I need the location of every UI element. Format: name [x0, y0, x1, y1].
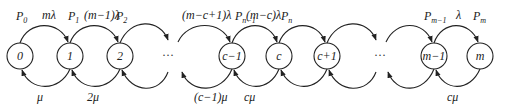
prob-p1: P1 [68, 10, 79, 25]
ellipsis-2: ··· [374, 48, 386, 63]
node-label-m-minus-1: m−1 [420, 50, 448, 62]
prob-pm-minus-1: Pm−1 [424, 10, 447, 25]
arrival-arc-c-minus-1-c [232, 26, 277, 43]
service-arc-m-m-minus-1 [436, 69, 480, 86]
service-arc-dots-2 [122, 70, 168, 88]
rate-m-minus-1-lambda: (m−1)λ [84, 9, 120, 21]
rate-lambda: λ [456, 9, 461, 21]
arrival-arc-0-1 [20, 26, 68, 43]
prob-p0: P0 [16, 10, 27, 25]
node-label-0: 0 [8, 50, 32, 62]
arrival-arc-2-dots [120, 24, 168, 43]
prob-pm: Pm [473, 10, 486, 25]
rate-c-minus-1-mu: (c−1)μ [194, 91, 227, 103]
arrival-arc-c-plus-1-dots [327, 24, 376, 43]
rate-m-minus-c-plus-1-lambda: (m−c+1)λ [182, 9, 231, 21]
rate-c-mu-final: cμ [447, 91, 458, 103]
service-arc-1-0 [22, 69, 70, 86]
rate-mu: μ [37, 91, 43, 103]
arrival-arc-dots-m-minus-1 [386, 26, 432, 43]
rate-2mu: 2μ [87, 91, 99, 103]
node-label-c-minus-1: c−1 [218, 50, 246, 62]
node-label-m: m [468, 50, 492, 62]
node-label-1: 1 [58, 50, 82, 62]
rate-m-minus-c-lambda: (m−c)λ [246, 9, 281, 21]
service-arc-c-minus-1-dots [182, 69, 232, 88]
node-label-2: 2 [108, 50, 132, 62]
arrival-arc-c-c-plus-1 [279, 26, 325, 43]
service-arc-m-minus-1-dots [388, 69, 434, 88]
arrival-arc-dots-c-minus-1 [178, 26, 230, 43]
service-arc-c-plus-1-c [281, 69, 327, 86]
arrival-arc-m-minus-1-m [434, 26, 478, 43]
rate-m-lambda: mλ [42, 9, 56, 21]
ellipsis-1: ··· [162, 48, 174, 63]
node-label-c-plus-1: c+1 [313, 50, 341, 62]
prob-pn: Pn [281, 10, 292, 25]
node-label-c: c [267, 50, 291, 62]
service-arc-2-1 [72, 69, 120, 86]
rate-c-mu: cμ [244, 91, 255, 103]
service-arc-c-c-minus-1 [234, 69, 279, 86]
arrival-arc-1-2 [70, 26, 118, 43]
service-arc-dots-c-plus-1 [329, 70, 376, 88]
